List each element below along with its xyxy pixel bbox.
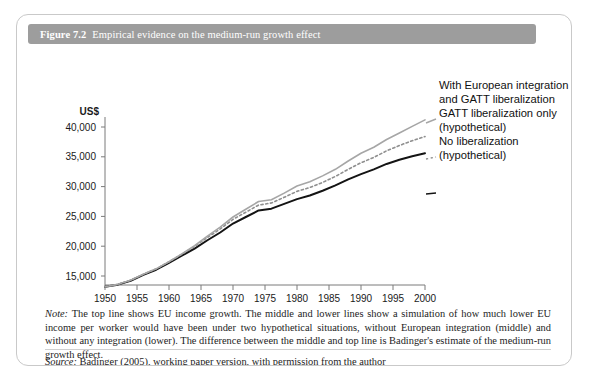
x-tick-label: 1990 <box>350 293 373 304</box>
leader-line-bot <box>426 193 436 194</box>
x-tick-label: 1950 <box>94 293 117 304</box>
note-text: The top line shows EU income growth. The… <box>45 308 551 360</box>
x-tick-label: 1965 <box>190 293 213 304</box>
figure-source: Source: Badinger (2005), working paper v… <box>45 355 551 366</box>
x-tick-label: 1995 <box>382 293 405 304</box>
legend-label-top-2: and GATT liberalization <box>439 93 555 105</box>
series-line-gatt-only <box>105 137 425 287</box>
y-tick-label: 25,000 <box>65 211 96 222</box>
y-tick-label: 40,000 <box>65 122 96 133</box>
legend-label-bot-1: No liberalization <box>439 135 519 147</box>
x-tick-label: 1960 <box>158 293 181 304</box>
leader-line-mid <box>426 157 436 159</box>
figure-title-bar: Figure 7.2 Empirical evidence on the med… <box>28 24 536 44</box>
x-tick-label: 1980 <box>286 293 309 304</box>
note-lead: Note: <box>45 308 68 319</box>
figure-number: Figure 7.2 <box>40 29 86 40</box>
figure-card: Figure 7.2 Empirical evidence on the med… <box>16 14 572 366</box>
series-line-full-integration <box>105 120 425 287</box>
x-tick-label: 1955 <box>126 293 149 304</box>
source-text: Badinger (2005), working paper version, … <box>77 356 386 366</box>
y-tick-label: 15,000 <box>65 271 96 282</box>
x-tick-label: 1975 <box>254 293 277 304</box>
note-source-divider <box>45 349 551 350</box>
chart-plot-area: US$ 40,000 35,000 30,000 25,000 20,000 1… <box>17 47 572 305</box>
source-lead: Source: <box>45 356 77 366</box>
y-tick-label: 30,000 <box>65 181 96 192</box>
x-tick-label: 1970 <box>222 293 245 304</box>
line-chart: US$ 40,000 35,000 30,000 25,000 20,000 1… <box>17 47 572 305</box>
x-tick-label: 2000 <box>414 293 437 304</box>
y-axis-unit-label: US$ <box>80 106 100 117</box>
leader-line-top <box>426 119 436 123</box>
legend-label-top-1: With European integration <box>439 79 568 91</box>
y-tick-label: 20,000 <box>65 241 96 252</box>
legend-label-bot-2: (hypothetical) <box>439 149 506 161</box>
legend-label-mid-1: GATT liberalization only <box>439 107 557 119</box>
y-tick-label: 35,000 <box>65 151 96 162</box>
series-line-no-liberalization <box>105 153 425 287</box>
legend-label-mid-2: (hypothetical) <box>439 121 506 133</box>
figure-note: Note: The top line shows EU income growt… <box>45 307 551 361</box>
x-tick-label: 1985 <box>318 293 341 304</box>
figure-title: Empirical evidence on the medium-run gro… <box>92 29 320 40</box>
